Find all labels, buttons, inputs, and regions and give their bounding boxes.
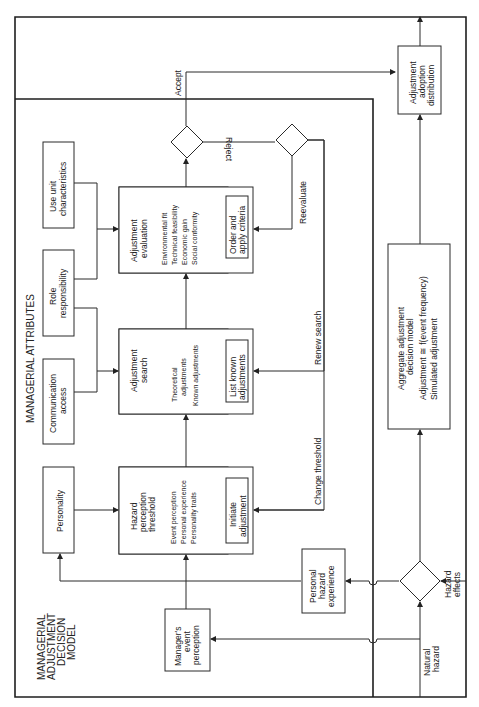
svg-text:Communication: Communication	[48, 374, 58, 433]
svg-text:Technical feasibility: Technical feasibility	[171, 205, 179, 265]
reevaluate-renew-diamond	[276, 124, 308, 156]
reevaluate-label: Reevaluate	[298, 181, 308, 224]
accept-reject-diamond	[171, 126, 203, 158]
svg-text:threshold: threshold	[147, 497, 157, 532]
svg-text:characteristics: characteristics	[58, 162, 68, 216]
model-title: MANAGERIAL ADJUSTMENT DECISION MODEL	[36, 613, 77, 680]
renew-search-label: Renew search	[313, 310, 323, 365]
svg-text:Environmental fit: Environmental fit	[161, 213, 168, 265]
svg-text:distribution: distribution	[426, 65, 436, 106]
svg-text:Social conformity: Social conformity	[191, 211, 199, 265]
reject-label: Reject	[224, 137, 234, 162]
svg-text:access: access	[58, 388, 68, 414]
svg-text:Adjustment ≅ f(event frequency: Adjustment ≅ f(event frequency)	[418, 276, 428, 400]
accept-label: Accept	[173, 69, 183, 96]
svg-text:Personality traits: Personality traits	[190, 492, 198, 544]
svg-text:Initiate: Initiate	[228, 502, 238, 527]
change-threshold-label: Change threshold	[313, 438, 323, 505]
svg-text:evaluation: evaluation	[139, 219, 149, 258]
svg-text:hazard: hazard	[431, 646, 441, 672]
svg-text:Theoretical: Theoretical	[171, 367, 178, 402]
svg-text:Use unit: Use unit	[48, 180, 58, 212]
svg-text:Role: Role	[48, 287, 58, 305]
svg-text:Simulated adjustment: Simulated adjustment	[429, 318, 439, 400]
svg-text:experience: experience	[326, 565, 336, 607]
svg-text:MODEL: MODEL	[66, 624, 77, 660]
managerial-attributes-label: MANAGERIAL ATTRIBUTES	[25, 294, 36, 423]
svg-text:perception: perception	[191, 625, 201, 665]
svg-text:adjustment: adjustment	[238, 495, 248, 537]
svg-text:responsibility: responsibility	[58, 268, 68, 318]
svg-text:Personal experience: Personal experience	[180, 480, 188, 544]
svg-text:Adjustment: Adjustment	[129, 219, 139, 262]
svg-text:adjustments: adjustments	[237, 354, 247, 400]
svg-text:search: search	[139, 357, 149, 383]
svg-text:adjustments: adjustments	[180, 358, 188, 396]
svg-text:effects: effects	[452, 572, 462, 597]
svg-text:apply criteria: apply criteria	[237, 206, 247, 254]
svg-text:Personality: Personality	[55, 489, 65, 532]
managerial-adjustment-diagram: MANAGERIAL ADJUSTMENT DECISION MODEL MAN…	[0, 0, 479, 707]
svg-text:decision model: decision model	[405, 318, 415, 375]
svg-text:Adjustment: Adjustment	[129, 349, 139, 392]
svg-text:Known adjustments: Known adjustments	[192, 344, 200, 406]
svg-text:Economic gain: Economic gain	[181, 219, 189, 265]
svg-text:Event perception: Event perception	[170, 491, 178, 544]
hazard-event-diamond	[400, 561, 440, 601]
